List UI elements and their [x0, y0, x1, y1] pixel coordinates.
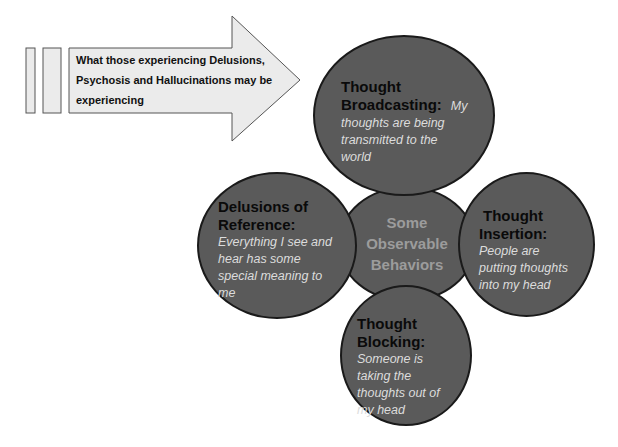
description: world: [341, 149, 491, 166]
text-delusions-of-reference: Delusions of Reference: Everything I see…: [218, 198, 353, 302]
description: Everything I see and: [218, 234, 353, 251]
arrow-label-line: experiencing: [76, 90, 276, 110]
arrow-stripe-2: [43, 48, 61, 113]
text-thought-insertion: Thought Insertion: People are putting th…: [479, 207, 594, 294]
arrow-label-line: Psychosis and Hallucinations may be: [76, 70, 276, 90]
description: transmitted to the: [341, 132, 491, 149]
heading: Broadcasting:: [341, 96, 442, 113]
description: taking the: [357, 368, 469, 385]
description: thoughts out of: [357, 385, 469, 402]
heading: Thought: [479, 207, 594, 225]
center-label-line: Some: [338, 212, 476, 233]
description: Someone is: [357, 351, 469, 368]
description: My: [451, 99, 468, 113]
text-thought-blocking: Thought Blocking: Someone is taking the …: [357, 315, 469, 419]
description: my head: [357, 402, 469, 419]
description: People are: [479, 243, 594, 260]
heading: Delusions of: [218, 198, 353, 216]
heading: Thought: [341, 78, 491, 96]
description: putting thoughts: [479, 260, 594, 277]
heading-row: Broadcasting: My: [341, 96, 491, 115]
heading: Insertion:: [479, 225, 594, 243]
description: special meaning to: [218, 268, 353, 285]
arrow-label: What those experiencing Delusions, Psych…: [76, 50, 276, 110]
description: me: [218, 285, 353, 302]
heading: Reference:: [218, 216, 353, 234]
center-label: Some Observable Behaviors: [338, 212, 476, 275]
arrow-label-line: What those experiencing Delusions,: [76, 50, 276, 70]
center-label-line: Observable: [338, 233, 476, 254]
description: hear has some: [218, 251, 353, 268]
center-label-line: Behaviors: [338, 254, 476, 275]
description: thoughts are being: [341, 115, 491, 132]
heading: Blocking:: [357, 333, 469, 351]
text-thought-broadcasting: Thought Broadcasting: My thoughts are be…: [341, 78, 491, 166]
description: into my head: [479, 277, 594, 294]
heading: Thought: [357, 315, 469, 333]
arrow-stripe-1: [26, 48, 35, 113]
